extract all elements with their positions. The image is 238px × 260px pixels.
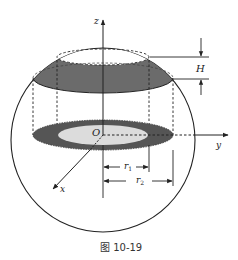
- x-axis: [53, 150, 90, 189]
- r1-label: r1: [124, 161, 132, 172]
- z-axis-label: z: [93, 16, 99, 26]
- figure-caption: 图 10-19: [100, 242, 142, 253]
- origin-label: O: [92, 127, 100, 138]
- height-label: H: [195, 63, 205, 74]
- y-axis-label: y: [215, 140, 222, 150]
- r2-label: r2: [136, 175, 144, 186]
- sphere-zone-diagram: z y x O H r1 r2 图 10-19: [0, 0, 238, 260]
- radius-dimensions: [103, 145, 173, 198]
- x-axis-label: x: [60, 184, 65, 194]
